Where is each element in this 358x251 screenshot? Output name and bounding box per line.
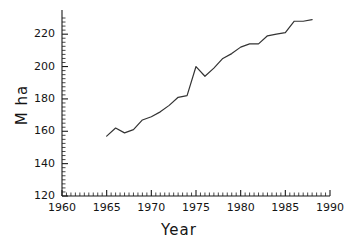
y-axis-title: M ha [13,75,31,135]
y-tick-label: 140 [10,157,55,170]
x-tick-label: 1980 [216,201,266,214]
line-chart: 120140160180200220 196019651970197519801… [0,0,358,251]
x-tick-label: 1985 [260,201,310,214]
y-tick-label: 220 [10,27,55,40]
x-tick-label: 1990 [305,201,355,214]
x-tick-label: 1960 [37,201,87,214]
x-tick-label: 1975 [171,201,221,214]
x-axis-title: Year [0,221,358,239]
x-tick-label: 1970 [126,201,176,214]
y-tick-label: 200 [10,60,55,73]
x-tick-label: 1965 [82,201,132,214]
axes [62,10,330,196]
tick-marks [62,18,330,196]
data-series-line [107,20,312,137]
